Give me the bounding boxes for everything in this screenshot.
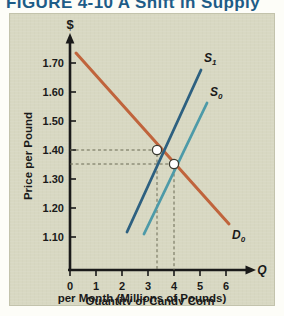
y-tick-label-1.10: 1.10 bbox=[43, 231, 64, 243]
equilibrium-point-new bbox=[152, 145, 161, 154]
curve-label-S0-letter: S bbox=[210, 85, 218, 99]
chart-svg: 1.70 1.60 1.50 1.40 1.30 1.20 1.10 bbox=[10, 14, 274, 305]
curve-label-S0: S0 bbox=[210, 85, 223, 101]
x-tick-label-6: 6 bbox=[223, 280, 229, 292]
x-tick-label-0: 0 bbox=[67, 280, 73, 292]
x-axis-title-line2: per Month (Millions of Pounds) bbox=[10, 292, 274, 304]
curve-label-S0-sub: 0 bbox=[218, 92, 223, 101]
chart-panel: 1.70 1.60 1.50 1.40 1.30 1.20 1.10 bbox=[9, 13, 275, 306]
curve-label-D0-letter: D bbox=[232, 228, 241, 242]
curve-supply-S1 bbox=[127, 70, 201, 232]
x-axis-symbol: Q bbox=[257, 263, 267, 277]
figure-title-strip: FIGURE 4-10 A Shift in Supply bbox=[0, 0, 284, 13]
curve-label-S1: S1 bbox=[204, 51, 217, 67]
curve-label-D0: D0 bbox=[232, 228, 246, 244]
x-tick-label-1: 1 bbox=[93, 280, 99, 292]
plot-area: 1.70 1.60 1.50 1.40 1.30 1.20 1.10 bbox=[10, 14, 274, 305]
y-tick-label-1.20: 1.20 bbox=[43, 202, 64, 214]
curve-label-S1-letter: S bbox=[204, 51, 212, 65]
x-tick-label-4: 4 bbox=[171, 280, 178, 292]
figure-container: FIGURE 4-10 A Shift in Supply bbox=[0, 0, 284, 316]
axes-group bbox=[66, 33, 256, 274]
x-tick-label-3: 3 bbox=[145, 280, 151, 292]
y-axis-arrow bbox=[66, 33, 75, 44]
y-tick-label-1.30: 1.30 bbox=[43, 173, 64, 185]
x-tick-labels: 0 1 2 3 4 5 6 bbox=[67, 280, 229, 292]
x-tick-label-5: 5 bbox=[197, 280, 203, 292]
y-axis-symbol: $ bbox=[66, 17, 74, 32]
x-axis-arrow bbox=[246, 266, 257, 275]
y-tick-label-1.60: 1.60 bbox=[43, 86, 64, 98]
curve-label-D0-sub: 0 bbox=[241, 235, 246, 244]
curve-demand-D0 bbox=[76, 53, 229, 224]
guide-lines-group bbox=[70, 150, 174, 270]
equilibrium-point-original bbox=[169, 159, 178, 168]
x-tick-label-2: 2 bbox=[119, 280, 125, 292]
y-tick-label-1.40: 1.40 bbox=[43, 144, 64, 156]
y-tick-labels: 1.70 1.60 1.50 1.40 1.30 1.20 1.10 bbox=[43, 57, 64, 243]
figure-title: FIGURE 4-10 A Shift in Supply bbox=[6, 0, 260, 13]
curve-label-S1-sub: 1 bbox=[212, 58, 217, 67]
y-tick-label-1.50: 1.50 bbox=[43, 115, 64, 127]
y-axis-title: Price per Pound bbox=[22, 112, 34, 200]
y-tick-label-1.70: 1.70 bbox=[43, 57, 64, 69]
